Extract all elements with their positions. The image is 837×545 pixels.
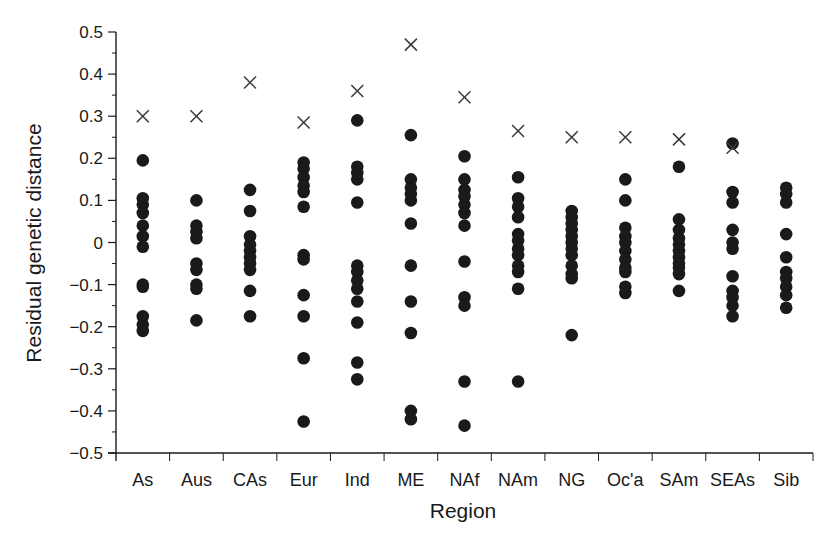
data-point: [297, 310, 310, 323]
data-point: [351, 356, 364, 369]
data-point: [297, 415, 310, 428]
data-point: [458, 150, 471, 163]
data-point: [351, 114, 364, 127]
data-point: [405, 194, 418, 207]
data-point: [244, 184, 257, 197]
data-point: [244, 310, 257, 323]
y-tick-label: 0.2: [79, 149, 103, 168]
x-tick-label: NAm: [498, 470, 538, 490]
data-point: [190, 194, 203, 207]
data-point: [565, 329, 578, 342]
cross-marker: [244, 77, 256, 89]
data-point: [726, 310, 739, 323]
y-axis: 0.50.40.30.20.10−0.1−0.2−0.3−0.4−0.5: [69, 23, 116, 463]
data-point: [458, 207, 471, 220]
cross-marker: [298, 117, 310, 129]
x-tick-label: Ind: [345, 470, 370, 490]
data-point: [190, 314, 203, 327]
data-point: [565, 272, 578, 285]
data-point: [512, 266, 525, 279]
cross-markers: [137, 39, 739, 154]
x-tick-label: NG: [558, 470, 585, 490]
data-point: [405, 217, 418, 230]
cross-marker: [459, 91, 471, 103]
data-point: [137, 154, 150, 167]
cross-marker: [351, 85, 363, 97]
data-point: [297, 186, 310, 199]
y-axis-label: Residual genetic distance: [22, 123, 45, 362]
data-point: [405, 413, 418, 426]
y-tick-label: 0.4: [79, 65, 103, 84]
data-point: [619, 173, 632, 186]
data-point: [351, 295, 364, 308]
x-tick-label: CAs: [233, 470, 267, 490]
data-point: [190, 283, 203, 296]
x-tick-label: SAm: [659, 470, 698, 490]
y-tick-label: −0.5: [69, 444, 103, 463]
y-tick-label: 0.1: [79, 191, 103, 210]
data-point: [405, 129, 418, 142]
data-point: [190, 232, 203, 245]
data-point: [780, 251, 793, 264]
data-point: [351, 173, 364, 186]
cross-marker: [673, 133, 685, 145]
data-point: [405, 295, 418, 308]
data-point: [780, 196, 793, 209]
data-point: [137, 280, 150, 293]
x-tick-label: Aus: [181, 470, 212, 490]
cross-marker: [190, 110, 202, 122]
x-tick-label: SEAs: [710, 470, 755, 490]
data-point: [351, 316, 364, 329]
data-point: [673, 268, 686, 281]
data-point: [458, 419, 471, 432]
data-point: [351, 373, 364, 386]
y-tick-label: 0.3: [79, 107, 103, 126]
data-point: [297, 253, 310, 266]
data-point: [297, 289, 310, 302]
cross-marker: [512, 125, 524, 137]
y-tick-label: 0.5: [79, 23, 103, 42]
x-axis: AsAusCAsEurIndMENAfNAmNGOc'aSAmSEAsSib: [108, 453, 813, 490]
data-point: [351, 196, 364, 209]
data-point: [297, 352, 310, 365]
y-tick-label: −0.2: [69, 318, 103, 337]
x-tick-label: As: [132, 470, 153, 490]
data-point: [726, 270, 739, 283]
data-point: [780, 289, 793, 302]
data-point: [244, 264, 257, 277]
data-points: [137, 114, 793, 432]
data-point: [726, 224, 739, 237]
data-point: [458, 255, 471, 268]
x-tick-label: Sib: [773, 470, 799, 490]
x-axis-label: Region: [430, 499, 497, 522]
scatter-chart: 0.50.40.30.20.10−0.1−0.2−0.3−0.4−0.5 AsA…: [0, 0, 837, 545]
x-tick-label: NAf: [449, 470, 480, 490]
data-point: [619, 266, 632, 279]
data-point: [780, 228, 793, 241]
data-point: [673, 160, 686, 173]
y-tick-label: 0: [94, 234, 103, 253]
data-point: [297, 200, 310, 213]
data-point: [726, 196, 739, 209]
data-point: [351, 283, 364, 296]
data-point: [137, 207, 150, 220]
data-point: [458, 219, 471, 232]
data-point: [405, 259, 418, 272]
data-point: [780, 301, 793, 314]
y-tick-label: −0.4: [69, 402, 103, 421]
y-tick-label: −0.3: [69, 360, 103, 379]
data-point: [619, 194, 632, 207]
y-tick-label: −0.1: [69, 276, 103, 295]
data-point: [137, 325, 150, 338]
data-point: [673, 285, 686, 298]
cross-marker: [619, 131, 631, 143]
data-point: [244, 285, 257, 298]
data-point: [244, 205, 257, 218]
x-tick-label: Eur: [290, 470, 318, 490]
cross-marker: [405, 39, 417, 51]
data-point: [458, 299, 471, 312]
data-point: [190, 264, 203, 277]
data-point: [512, 283, 525, 296]
data-point: [619, 287, 632, 300]
cross-marker: [137, 110, 149, 122]
